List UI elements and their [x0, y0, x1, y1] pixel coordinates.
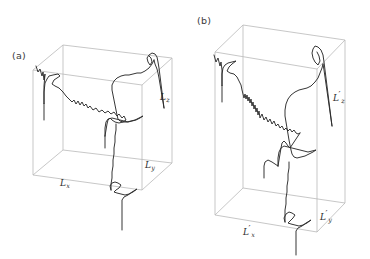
axis-label-b-y-sub: y: [328, 216, 332, 224]
axis-label-a-x: Lx: [60, 178, 70, 188]
axis-label-b-y: L′y: [320, 212, 332, 222]
panel-label-a: (a): [12, 50, 26, 61]
axis-label-b-x-sub: x: [251, 231, 255, 239]
polymer-conformation-figure: [0, 0, 370, 259]
axis-label-b-x: L′x: [243, 227, 255, 237]
axis-label-b-z-sub: z: [341, 97, 344, 105]
axis-label-a-y-sub: y: [151, 164, 155, 172]
axis-label-a-z: Lz: [160, 92, 169, 102]
axis-label-a-x-sub: x: [66, 182, 70, 190]
axis-label-a-z-sub: z: [166, 96, 169, 104]
figure-background: [0, 0, 370, 259]
axis-label-a-y: Ly: [145, 160, 155, 170]
panel-label-b: (b): [197, 15, 211, 26]
axis-label-b-z: L′z: [333, 93, 344, 103]
